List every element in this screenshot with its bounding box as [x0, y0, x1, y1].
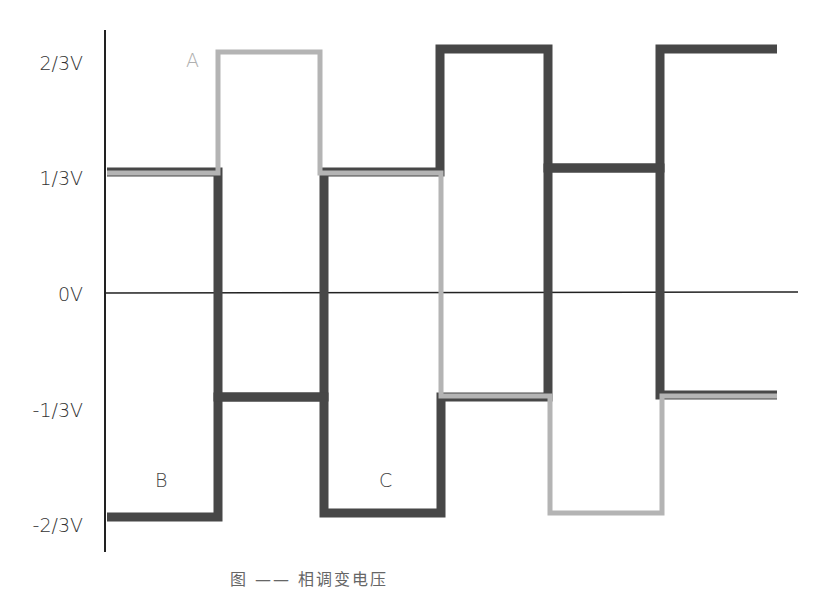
phase-label-b: B: [155, 469, 167, 491]
y-tick-0: 0V: [58, 283, 83, 305]
y-tick-2-3: 2/3V: [39, 52, 83, 74]
figure-caption: 图 —— 相调变电压: [230, 566, 388, 590]
phase-label-a: A: [186, 49, 199, 71]
y-tick-neg-1-3: -1/3V: [33, 399, 83, 421]
zero-axis: [105, 292, 798, 293]
y-tick-1-3: 1/3V: [39, 167, 83, 189]
y-tick-neg-2-3: -2/3V: [33, 514, 83, 536]
phase-label-c: C: [379, 469, 392, 491]
